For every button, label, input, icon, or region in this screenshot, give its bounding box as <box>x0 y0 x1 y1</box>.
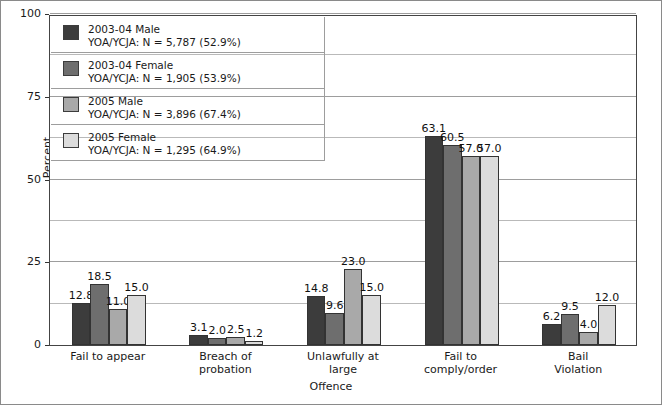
bar[interactable] <box>579 332 598 345</box>
x-axis-category-label: BailViolation <box>519 350 637 376</box>
legend-item[interactable]: 2005 MaleYOA/YCJA: N = 3,896 (67.4%) <box>51 89 324 125</box>
legend-label: 2005 MaleYOA/YCJA: N = 3,896 (67.4%) <box>88 95 241 121</box>
x-axis-category-line: Fail to appear <box>49 350 167 363</box>
plot-area: 12.818.511.015.03.12.02.51.214.89.623.01… <box>49 15 637 346</box>
x-axis-category-line: Unlawfully at <box>284 350 402 363</box>
legend-item[interactable]: 2003-04 FemaleYOA/YCJA: N = 1,905 (53.9%… <box>51 53 324 89</box>
bar[interactable] <box>462 156 481 345</box>
x-axis-category-line: Bail <box>519 350 637 363</box>
bar[interactable] <box>362 295 381 345</box>
bar[interactable] <box>598 305 617 345</box>
y-axis-tick-label: 25 <box>1 255 41 268</box>
legend-swatch-icon <box>63 97 79 112</box>
x-axis-category-label: Unlawfully atlarge <box>284 350 402 376</box>
bar-value-label: 15.0 <box>358 281 385 294</box>
bar-value-label: 15.0 <box>123 281 150 294</box>
legend-swatch-icon <box>63 133 79 148</box>
x-axis-category-label: Fail to appear <box>49 350 167 363</box>
bar[interactable] <box>245 341 264 345</box>
bar-group: 63.160.557.057.0 <box>403 16 521 345</box>
legend-series-name: 2005 Male <box>88 95 241 108</box>
y-axis-tick-label: 75 <box>1 90 41 103</box>
x-axis-category-line: probation <box>167 363 285 376</box>
bar[interactable] <box>90 284 109 345</box>
bar[interactable] <box>208 338 227 345</box>
bar[interactable] <box>109 309 128 345</box>
legend: 2003-04 MaleYOA/YCJA: N = 5,787 (52.9%)2… <box>51 17 325 161</box>
x-axis-category-line: large <box>284 363 402 376</box>
bar[interactable] <box>72 303 91 345</box>
y-axis-tick-label: 50 <box>1 173 41 186</box>
bar[interactable] <box>325 313 344 345</box>
legend-series-detail: YOA/YCJA: N = 1,905 (53.9%) <box>88 72 241 85</box>
legend-item[interactable]: 2003-04 MaleYOA/YCJA: N = 5,787 (52.9%) <box>51 17 324 53</box>
x-axis-category-line: Breach of <box>167 350 285 363</box>
x-axis-category-label: Breach ofprobation <box>167 350 285 376</box>
legend-series-name: 2003-04 Female <box>88 59 241 72</box>
bar[interactable] <box>425 136 444 345</box>
bar[interactable] <box>480 156 499 345</box>
legend-series-name: 2005 Female <box>88 131 241 144</box>
legend-swatch-icon <box>63 25 79 40</box>
bar-value-label: 18.5 <box>86 270 113 283</box>
legend-series-detail: YOA/YCJA: N = 3,896 (67.4%) <box>88 108 241 121</box>
legend-label: 2003-04 FemaleYOA/YCJA: N = 1,905 (53.9%… <box>88 59 241 85</box>
y-axis-tick-label: 100 <box>1 7 41 20</box>
legend-swatch-icon <box>63 61 79 76</box>
bar-value-label: 23.0 <box>340 255 367 268</box>
bar[interactable] <box>344 269 363 345</box>
bar-value-label: 14.8 <box>303 282 330 295</box>
bar-value-label: 12.0 <box>594 291 621 304</box>
bar[interactable] <box>127 295 146 345</box>
bar-value-label: 9.5 <box>557 300 584 313</box>
legend-label: 2005 FemaleYOA/YCJA: N = 1,295 (64.9%) <box>88 131 241 157</box>
legend-item[interactable]: 2005 FemaleYOA/YCJA: N = 1,295 (64.9%) <box>51 125 324 161</box>
bar-group: 6.29.54.012.0 <box>520 16 638 345</box>
y-axis-tick-label: 0 <box>1 338 41 351</box>
x-axis-category-line: Fail to <box>402 350 520 363</box>
bar-value-label: 1.2 <box>241 327 268 340</box>
bar[interactable] <box>542 324 561 345</box>
chart-figure: 0255075100 Percent 12.818.511.015.03.12.… <box>0 0 662 405</box>
legend-series-detail: YOA/YCJA: N = 5,787 (52.9%) <box>88 36 241 49</box>
legend-series-detail: YOA/YCJA: N = 1,295 (64.9%) <box>88 144 241 157</box>
legend-label: 2003-04 MaleYOA/YCJA: N = 5,787 (52.9%) <box>88 23 241 49</box>
x-axis-category-line: Violation <box>519 363 637 376</box>
x-axis-category-label: Fail tocomply/order <box>402 350 520 376</box>
bar[interactable] <box>443 145 462 345</box>
x-axis-title: Offence <box>1 380 661 393</box>
gridline <box>50 13 636 14</box>
legend-series-name: 2003-04 Male <box>88 23 241 36</box>
bar-value-label: 57.0 <box>476 142 503 155</box>
x-axis-category-line: comply/order <box>402 363 520 376</box>
